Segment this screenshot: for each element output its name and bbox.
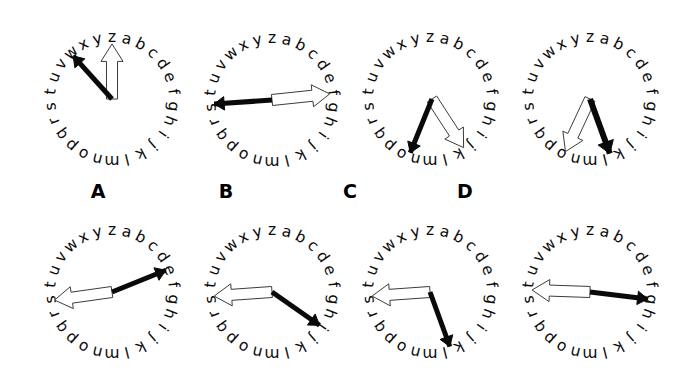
dial-letter-g: g — [482, 293, 501, 305]
dial-letter-g: g — [164, 100, 183, 112]
dial-letter-h: h — [160, 306, 180, 322]
dial-letter-d: d — [631, 55, 651, 73]
clock-top-3-white-hand — [427, 96, 463, 148]
dial-letter-m: m — [264, 153, 279, 171]
dial-letter-s: s — [519, 294, 538, 304]
dial-letter-n: n — [90, 149, 104, 169]
dial-letter-l: l — [123, 150, 131, 169]
option-label-d: D — [445, 182, 485, 201]
clock-option-d[interactable]: zabcdefghijklmnopqrstuvwxy — [502, 204, 678, 380]
dial-letter-k: k — [293, 145, 309, 165]
dial-letter-a: a — [438, 29, 452, 49]
dial-letter-j: j — [306, 138, 322, 155]
dial-letter-m: m — [582, 152, 597, 170]
dial-letter-z: z — [586, 28, 594, 46]
dial-letter-j: j — [624, 330, 640, 347]
dial-letter-h: h — [638, 306, 658, 322]
dial-letter-k: k — [133, 337, 149, 357]
dial-letter-r: r — [204, 115, 223, 128]
clock-option-d-black-hand — [590, 291, 648, 304]
dial-letter-m: m — [422, 345, 437, 363]
dial-letter-f: f — [324, 281, 343, 289]
dial-letter-h: h — [320, 306, 340, 322]
dial-letter-g: g — [324, 293, 343, 305]
dial-letter-e: e — [320, 262, 340, 277]
dial-letter-j: j — [464, 137, 480, 154]
dial-letter-q: q — [529, 318, 549, 336]
dial-letter-d: d — [631, 248, 651, 266]
clock-option-c[interactable]: zabcdefghijklmnopqrstuvwxy — [342, 204, 518, 380]
dial-letter-u: u — [204, 70, 224, 86]
dial-letter-s: s — [359, 101, 378, 111]
dial-letter-h: h — [638, 113, 658, 129]
dial-letter-a: a — [280, 30, 294, 50]
dial-letter-q: q — [211, 318, 231, 336]
dial-letter-h: h — [320, 114, 340, 130]
dial-letter-g: g — [482, 100, 501, 112]
dial-letter-k: k — [451, 337, 467, 357]
clock-top-3-black-hand — [408, 99, 432, 153]
dial-letter-r: r — [522, 307, 541, 320]
dial-letter-t: t — [359, 280, 378, 288]
dial-letter-m: m — [422, 152, 437, 170]
figure-canvas: zabcdefghijklmnopqrstuvwxyzabcdefghijklm… — [0, 0, 700, 383]
dial-letter-b: b — [450, 227, 467, 248]
clock-option-a[interactable]: zabcdefghijklmnopqrstuvwxy — [24, 204, 200, 380]
dial-letter-e: e — [320, 70, 340, 85]
dial-letter-n: n — [568, 342, 582, 362]
clock-option-b-black-hand — [272, 292, 320, 325]
dial-letter-z: z — [426, 28, 434, 46]
dial-letter-h: h — [160, 113, 180, 129]
dial-letter-k: k — [451, 144, 467, 164]
dial-letter-z: z — [586, 221, 594, 239]
dial-letter-k: k — [133, 144, 149, 164]
dial-letter-y: y — [91, 29, 104, 49]
dial-letter-d: d — [153, 55, 173, 73]
dial-letter-k: k — [611, 144, 627, 164]
dial-letter-g: g — [164, 293, 183, 305]
clock-top-4-black-hand — [590, 99, 613, 154]
dial-letter-m: m — [582, 345, 597, 363]
clock-option-b[interactable]: zabcdefghijklmnopqrstuvwxy — [184, 204, 360, 380]
dial-letter-h: h — [478, 306, 498, 322]
dial-letter-b: b — [610, 34, 627, 55]
dial-letter-t: t — [359, 87, 378, 95]
dial-letter-y: y — [251, 222, 264, 242]
dial-letter-r: r — [362, 307, 381, 320]
dial-letter-j: j — [146, 330, 162, 347]
dial-letter-i: i — [154, 320, 171, 334]
dial-letter-f: f — [482, 88, 501, 96]
dial-letter-b: b — [292, 227, 309, 248]
dial-letter-z: z — [108, 221, 116, 239]
dial-letter-m: m — [104, 152, 119, 170]
clock-top-3[interactable]: zabcdefghijklmnopqrstuvwxy — [342, 11, 518, 187]
dial-letter-h: h — [478, 113, 498, 129]
dial-letter-u: u — [204, 262, 224, 278]
dial-letter-i: i — [472, 127, 489, 141]
dial-letter-r: r — [362, 114, 381, 127]
dial-letter-f: f — [642, 281, 661, 289]
dial-letter-u: u — [362, 262, 382, 278]
clock-top-1[interactable]: zabcdefghijklmnopqrstuvwxy — [24, 11, 200, 187]
clock-option-a-white-hand — [55, 287, 113, 309]
dial-letter-n: n — [568, 149, 582, 169]
dial-letter-y: y — [409, 222, 422, 242]
dial-letter-z: z — [268, 29, 276, 47]
clock-top-4[interactable]: zabcdefghijklmnopqrstuvwxy — [502, 11, 678, 187]
dial-letter-y: y — [91, 222, 104, 242]
dial-letter-i: i — [314, 128, 331, 142]
dial-letter-d: d — [313, 56, 333, 74]
dial-letter-l: l — [601, 343, 609, 362]
dial-letter-y: y — [569, 29, 582, 49]
dial-letter-d: d — [471, 55, 491, 73]
dial-letter-i: i — [632, 320, 649, 334]
dial-letter-q: q — [529, 125, 549, 143]
clock-option-a-black-hand — [112, 268, 166, 292]
dial-letter-a: a — [438, 222, 452, 242]
dial-letter-e: e — [638, 69, 658, 84]
clock-top-2[interactable]: zabcdefghijklmnopqrstuvwxy — [184, 12, 360, 188]
dial-letter-n: n — [250, 150, 264, 170]
dial-letter-t: t — [41, 280, 60, 288]
dial-letter-j: j — [306, 330, 322, 347]
dial-letter-l: l — [441, 150, 449, 169]
